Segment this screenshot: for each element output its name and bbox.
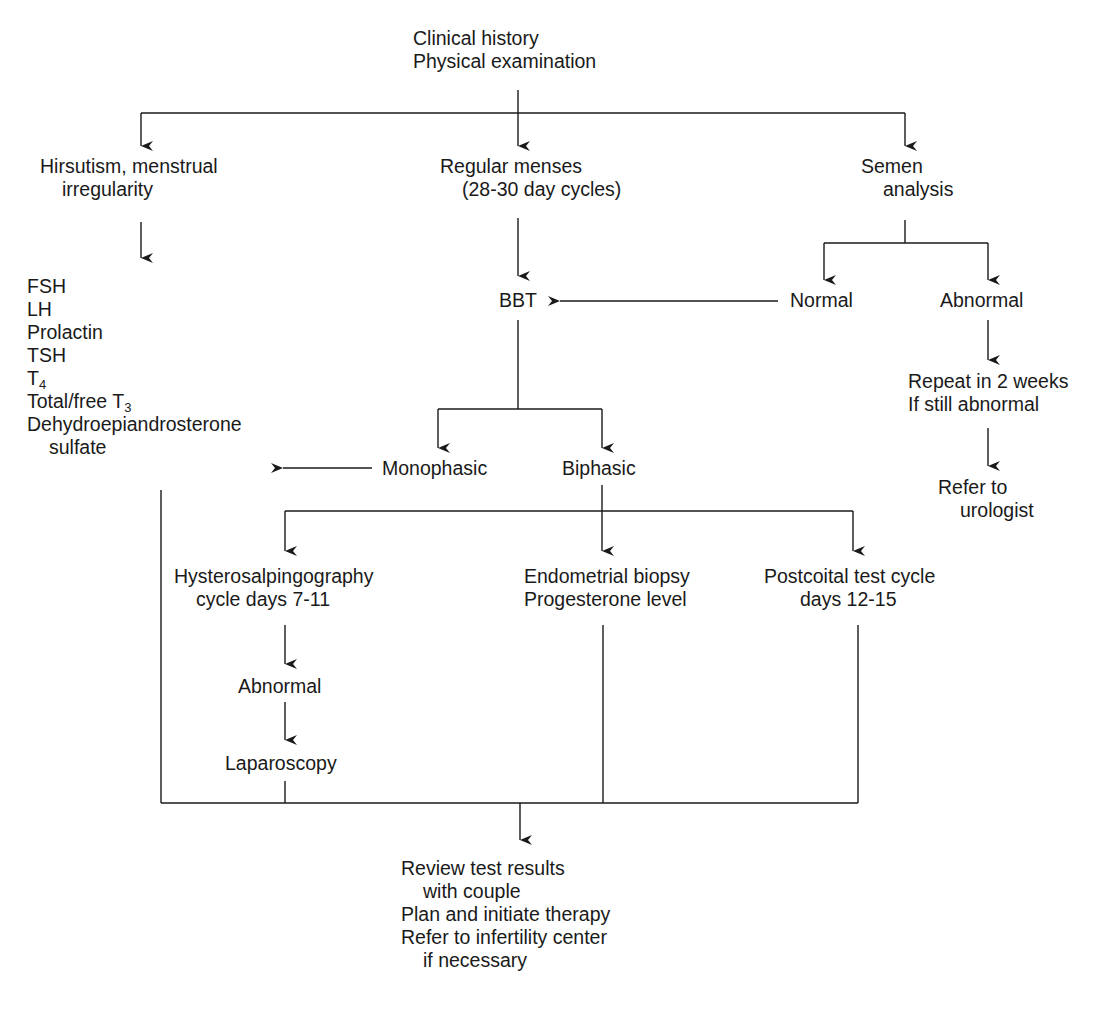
monophasic-label: Monophasic bbox=[382, 457, 487, 480]
node-semen-normal: Normal bbox=[790, 289, 853, 312]
node-repeat: Repeat in 2 weeks If still abnormal bbox=[908, 370, 1068, 416]
endometrial-line1: Endometrial biopsy bbox=[524, 565, 690, 588]
laparoscopy-label: Laparoscopy bbox=[225, 752, 337, 775]
test-lh: LH bbox=[27, 298, 242, 321]
test-t3: Total/free T3 bbox=[27, 390, 242, 413]
node-regular-menses: Regular menses (28-30 day cycles) bbox=[440, 155, 621, 201]
node-biphasic: Biphasic bbox=[562, 457, 636, 480]
hsg-line1: Hysterosalpingography bbox=[174, 565, 373, 588]
hirsutism-line1: Hirsutism, menstrual bbox=[40, 155, 218, 178]
urologist-line2: urologist bbox=[938, 499, 1034, 522]
node-semen-analysis: Semen analysis bbox=[861, 155, 953, 201]
regular-menses-line2: (28-30 day cycles) bbox=[440, 178, 621, 201]
endometrial-line2: Progesterone level bbox=[524, 588, 690, 611]
node-bbt: BBT bbox=[499, 289, 537, 312]
node-urologist: Refer to urologist bbox=[938, 476, 1034, 522]
test-t4: T4 bbox=[27, 367, 242, 390]
repeat-line1: Repeat in 2 weeks bbox=[908, 370, 1068, 393]
node-hsg-abnormal: Abnormal bbox=[238, 675, 321, 698]
biphasic-label: Biphasic bbox=[562, 457, 636, 480]
review-line4: Refer to infertility center bbox=[401, 926, 610, 949]
node-hirsutism: Hirsutism, menstrual irregularity bbox=[40, 155, 218, 201]
node-endometrial: Endometrial biopsy Progesterone level bbox=[524, 565, 690, 611]
node-review: Review test results with couple Plan and… bbox=[401, 857, 610, 972]
review-line1: Review test results bbox=[401, 857, 610, 880]
test-fsh: FSH bbox=[27, 275, 242, 298]
review-line2: with couple bbox=[401, 880, 610, 903]
test-tsh: TSH bbox=[27, 344, 242, 367]
test-dheas-line2: sulfate bbox=[27, 436, 242, 459]
hirsutism-line2: irregularity bbox=[40, 178, 218, 201]
review-line3: Plan and initiate therapy bbox=[401, 903, 610, 926]
start-line1: Clinical history bbox=[413, 27, 596, 50]
semen-line2: analysis bbox=[861, 178, 953, 201]
urologist-line1: Refer to bbox=[938, 476, 1034, 499]
node-hsg: Hysterosalpingography cycle days 7-11 bbox=[174, 565, 373, 611]
hsg-abnormal-label: Abnormal bbox=[238, 675, 321, 698]
semen-line1: Semen bbox=[861, 155, 953, 178]
postcoital-line1: Postcoital test cycle bbox=[764, 565, 935, 588]
node-start: Clinical history Physical examination bbox=[413, 27, 596, 73]
repeat-line2: If still abnormal bbox=[908, 393, 1068, 416]
normal-label: Normal bbox=[790, 289, 853, 312]
postcoital-line2: days 12-15 bbox=[764, 588, 935, 611]
node-monophasic: Monophasic bbox=[382, 457, 487, 480]
test-dheas-line1: Dehydroepiandrosterone bbox=[27, 413, 242, 436]
flowchart-canvas: Clinical history Physical examination Hi… bbox=[0, 0, 1117, 1015]
node-semen-abnormal: Abnormal bbox=[940, 289, 1023, 312]
node-hormone-tests: FSH LH Prolactin TSH T4 Total/free T3 De… bbox=[27, 275, 242, 459]
start-line2: Physical examination bbox=[413, 50, 596, 73]
hsg-line2: cycle days 7-11 bbox=[174, 588, 373, 611]
bbt-label: BBT bbox=[499, 289, 537, 312]
node-postcoital: Postcoital test cycle days 12-15 bbox=[764, 565, 935, 611]
review-line5: if necessary bbox=[401, 949, 610, 972]
semen-abnormal-label: Abnormal bbox=[940, 289, 1023, 312]
node-laparoscopy: Laparoscopy bbox=[225, 752, 337, 775]
test-prolactin: Prolactin bbox=[27, 321, 242, 344]
regular-menses-line1: Regular menses bbox=[440, 155, 621, 178]
